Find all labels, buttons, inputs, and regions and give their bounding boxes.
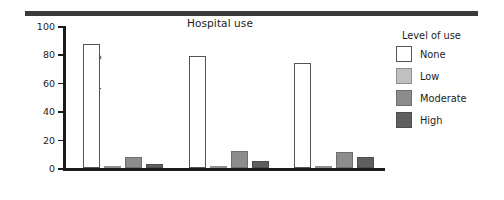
bar-moderate — [231, 151, 248, 168]
legend-label: High — [420, 115, 443, 126]
legend-item-none[interactable]: None — [396, 46, 502, 62]
legend-swatch-none — [396, 46, 412, 62]
x-axis-line — [63, 168, 385, 171]
bar-none — [83, 44, 100, 168]
legend-label: Moderate — [420, 93, 467, 104]
legend-title: Level of use — [402, 30, 502, 41]
legend-label: None — [420, 49, 446, 60]
legend-swatch-high — [396, 112, 412, 128]
bar-none — [294, 63, 311, 168]
y-tick-label: 100 — [37, 21, 55, 32]
plot-area: Percent reporting 020406080100 55–64 yea… — [64, 26, 381, 168]
legend-swatch-low — [396, 68, 412, 84]
legend-items: NoneLowModerateHigh — [396, 46, 502, 128]
y-tick-mark — [58, 26, 64, 28]
legend-item-low[interactable]: Low — [396, 68, 502, 84]
bar-low — [315, 166, 332, 168]
legend-item-high[interactable]: High — [396, 112, 502, 128]
y-tick-mark — [58, 54, 64, 56]
bar-moderate — [336, 152, 353, 168]
y-tick-label: 20 — [43, 134, 55, 145]
top-rule-divider — [25, 11, 478, 16]
bar-high — [252, 161, 269, 168]
bar-group — [83, 44, 163, 168]
bar-group — [189, 56, 269, 168]
bar-low — [210, 166, 227, 168]
y-tick-mark — [58, 83, 64, 85]
bar-high — [357, 157, 374, 168]
legend-swatch-moderate — [396, 90, 412, 106]
bar-group — [294, 63, 374, 168]
y-tick-mark — [58, 111, 64, 113]
bar-low — [104, 166, 121, 168]
bar-moderate — [125, 157, 142, 168]
chart-legend: Level of use NoneLowModerateHigh — [396, 30, 502, 134]
bar-high — [146, 164, 163, 168]
y-tick-label: 0 — [49, 163, 55, 174]
bar-none — [189, 56, 206, 168]
legend-label: Low — [420, 71, 439, 82]
legend-item-moderate[interactable]: Moderate — [396, 90, 502, 106]
chart-figure: Hospital use Percent reporting 020406080… — [0, 0, 504, 200]
y-tick-mark — [58, 140, 64, 142]
y-tick-label: 40 — [43, 106, 55, 117]
y-tick-label: 60 — [43, 77, 55, 88]
y-tick-mark — [58, 168, 64, 170]
y-tick-label: 80 — [43, 49, 55, 60]
